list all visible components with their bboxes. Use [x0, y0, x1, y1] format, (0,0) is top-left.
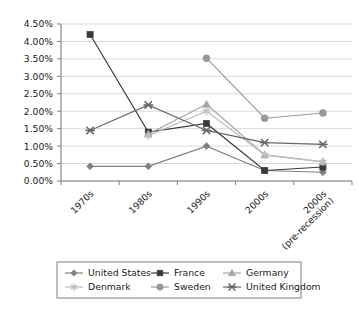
data-series [85, 31, 327, 175]
x-axis-tick-label: 2000s [243, 188, 271, 216]
x-axis-tick-marks [61, 181, 352, 185]
data-point-marker [318, 141, 328, 148]
data-point-marker [203, 100, 211, 107]
series-line [207, 58, 323, 118]
y-axis-tick-label: 3.50% [24, 53, 53, 64]
data-point-marker [203, 55, 210, 62]
data-point-marker [261, 115, 268, 122]
y-axis-tick-label: 3.00% [24, 71, 53, 82]
data-point-marker [262, 167, 268, 173]
legend-label: Denmark [88, 281, 131, 292]
legend-item-france[interactable]: France [151, 267, 205, 278]
x-axis-tick-label-line: 1970s [68, 188, 96, 216]
data-point-marker [71, 270, 78, 277]
y-axis-tick-label: 1.00% [24, 141, 53, 152]
y-axis-tick-labels: 0.00%0.50%1.00%1.50%2.00%2.50%3.00%3.50%… [24, 18, 53, 186]
y-axis-tick-label: 0.00% [24, 175, 53, 186]
y-axis-tick-label: 0.50% [24, 158, 53, 169]
y-axis-tick-label: 2.50% [24, 88, 53, 99]
y-axis-tick-label: 1.50% [24, 123, 53, 134]
data-point-marker [319, 109, 326, 116]
legend-label: United States [88, 267, 151, 278]
y-axis-tick-label: 2.00% [24, 106, 53, 117]
line-chart: 0.00%0.50%1.00%1.50%2.00%2.50%3.00%3.50%… [0, 0, 359, 310]
x-axis-tick-label-line: 2000s [243, 188, 271, 216]
legend-item-united-states[interactable]: United States [65, 267, 151, 278]
legend-item-germany[interactable]: Germany [223, 267, 289, 278]
series-line [90, 146, 323, 172]
x-axis-tick-label-line: 1990s [184, 188, 212, 216]
legend-item-sweden[interactable]: Sweden [151, 281, 211, 292]
data-point-marker [157, 270, 163, 276]
x-axis-tick-label: 1990s [184, 188, 212, 216]
data-point-marker [203, 143, 210, 150]
y-axis-tick-label: 4.50% [24, 18, 53, 29]
data-point-marker [227, 284, 236, 291]
x-axis-tick-label: 2000s(pre-recession) [272, 188, 336, 252]
legend-label: Sweden [174, 281, 211, 292]
data-point-marker [157, 284, 164, 291]
data-point-marker [85, 127, 95, 134]
x-axis-tick-label: 1980s [126, 188, 154, 216]
data-point-marker [260, 139, 270, 146]
chart-canvas: 0.00%0.50%1.00%1.50%2.00%2.50%3.00%3.50%… [0, 0, 359, 310]
x-axis-tick-labels: 1970s1980s1990s2000s2000s(pre-recession) [68, 188, 336, 252]
legend-item-united-kingdom[interactable]: United Kingdom [223, 281, 321, 292]
chart-legend: United StatesFranceGermanyDenmarkSwedenU… [57, 262, 321, 298]
data-point-marker [144, 101, 154, 108]
x-axis-tick-label-line: 1980s [126, 188, 154, 216]
data-point-marker [202, 127, 212, 134]
x-axis-tick-label: 1970s [68, 188, 96, 216]
data-point-marker [203, 120, 209, 126]
series-united-states [87, 143, 327, 176]
y-axis-tick-marks [57, 24, 61, 181]
y-axis-tick-label: 4.00% [24, 36, 53, 47]
legend-label: United Kingdom [246, 281, 321, 292]
legend-label: France [174, 267, 205, 278]
legend-label: Germany [246, 267, 289, 278]
data-point-marker [87, 31, 93, 37]
legend-item-denmark[interactable]: Denmark [65, 281, 131, 292]
